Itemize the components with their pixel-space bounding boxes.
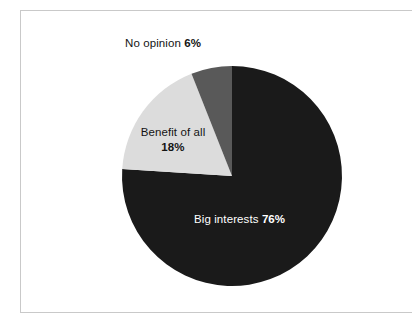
pie-label-benefit-of-all-percent: 18% [130, 140, 216, 155]
pie-label-no-opinion-percent: 6% [184, 37, 201, 49]
pie-label-big-interests: Big interests 76% [194, 212, 285, 227]
pie-label-big-interests-percent: 76% [262, 213, 285, 225]
pie-label-no-opinion: No opinion 6% [125, 36, 201, 51]
pie-label-benefit-of-all: Benefit of all 18% [130, 125, 216, 155]
pie-label-benefit-of-all-text: Benefit of all [141, 126, 206, 138]
pie-slices [122, 66, 342, 286]
pie-label-no-opinion-text: No opinion [125, 37, 181, 49]
pie-label-big-interests-text: Big interests [194, 213, 259, 225]
